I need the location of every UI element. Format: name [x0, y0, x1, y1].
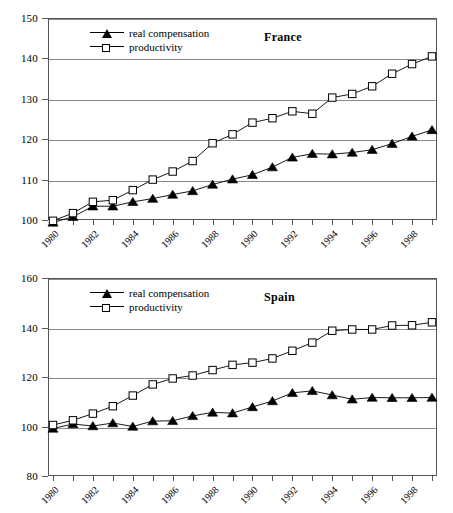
data-point-marker: [209, 140, 216, 147]
data-point-marker: [407, 132, 417, 140]
data-point-marker: [189, 157, 196, 164]
data-point-marker: [69, 209, 76, 216]
data-point-marker: [368, 83, 375, 90]
data-point-marker: [267, 163, 277, 171]
data-point-marker: [329, 327, 336, 334]
data-point-marker: [408, 60, 415, 67]
legend-item-label: productivity: [124, 301, 183, 313]
chart-title: France: [264, 30, 302, 45]
data-point-marker: [208, 180, 218, 188]
data-point-marker: [89, 198, 96, 205]
open-square-icon: [90, 300, 124, 314]
data-point-marker: [249, 359, 256, 366]
data-point-marker: [229, 361, 236, 368]
data-point-marker: [209, 366, 216, 373]
data-point-marker: [289, 347, 296, 354]
filled-triangle-icon: [90, 26, 124, 40]
data-point-marker: [387, 139, 397, 147]
data-point-marker: [269, 355, 276, 362]
data-point-marker: [427, 126, 437, 134]
legend-item-label: productivity: [124, 41, 183, 53]
chart-panel-france: 1001101201301401501980198219841986198819…: [0, 0, 453, 256]
chart-legend: real compensationproductivity: [90, 26, 209, 54]
data-point-marker: [289, 108, 296, 115]
data-point-marker: [329, 94, 336, 101]
legend-item[interactable]: real compensation: [90, 286, 209, 300]
data-point-marker: [229, 131, 236, 138]
data-point-marker: [49, 217, 56, 224]
data-point-marker: [129, 186, 136, 193]
chart-panel-spain: 8010012014016019801982198419861988199019…: [0, 256, 453, 512]
data-point-marker: [69, 417, 76, 424]
data-point-marker: [169, 168, 176, 175]
data-point-marker: [208, 408, 218, 416]
chart-legend: real compensationproductivity: [90, 286, 209, 314]
data-point-marker: [367, 145, 377, 153]
filled-triangle-icon: [90, 286, 124, 300]
data-point-marker: [267, 397, 277, 405]
data-point-marker: [129, 392, 136, 399]
data-point-marker: [49, 421, 56, 428]
data-point-marker: [349, 90, 356, 97]
series-productivity: [49, 319, 435, 429]
figure-container: 1001101201301401501980198219841986198819…: [0, 0, 453, 513]
data-point-marker: [269, 114, 276, 121]
legend-item-label: real compensation: [124, 27, 209, 39]
chart-title: Spain: [264, 290, 295, 305]
data-point-marker: [309, 110, 316, 117]
data-point-marker: [408, 322, 415, 329]
series-layer: [0, 0, 453, 256]
data-point-marker: [109, 197, 116, 204]
data-point-marker: [108, 419, 118, 427]
data-point-marker: [109, 403, 116, 410]
data-point-marker: [388, 322, 395, 329]
data-point-marker: [428, 319, 435, 326]
data-point-marker: [149, 381, 156, 388]
data-point-marker: [428, 53, 435, 60]
data-point-marker: [247, 170, 257, 178]
legend-item[interactable]: productivity: [90, 40, 209, 54]
data-point-marker: [309, 339, 316, 346]
data-point-marker: [368, 326, 375, 333]
data-point-marker: [247, 403, 257, 411]
data-point-marker: [169, 375, 176, 382]
data-point-marker: [149, 176, 156, 183]
data-point-marker: [249, 119, 256, 126]
series-real-compensation: [48, 126, 437, 227]
series-layer: [0, 256, 453, 512]
data-point-marker: [89, 410, 96, 417]
legend-item[interactable]: productivity: [90, 300, 209, 314]
data-point-marker: [188, 187, 198, 195]
data-point-marker: [349, 326, 356, 333]
data-point-marker: [189, 372, 196, 379]
legend-item[interactable]: real compensation: [90, 26, 209, 40]
series-real-compensation: [48, 386, 437, 432]
data-point-marker: [307, 386, 317, 394]
data-point-marker: [388, 70, 395, 77]
legend-item-label: real compensation: [124, 287, 209, 299]
open-square-icon: [90, 40, 124, 54]
series-productivity: [49, 53, 435, 225]
